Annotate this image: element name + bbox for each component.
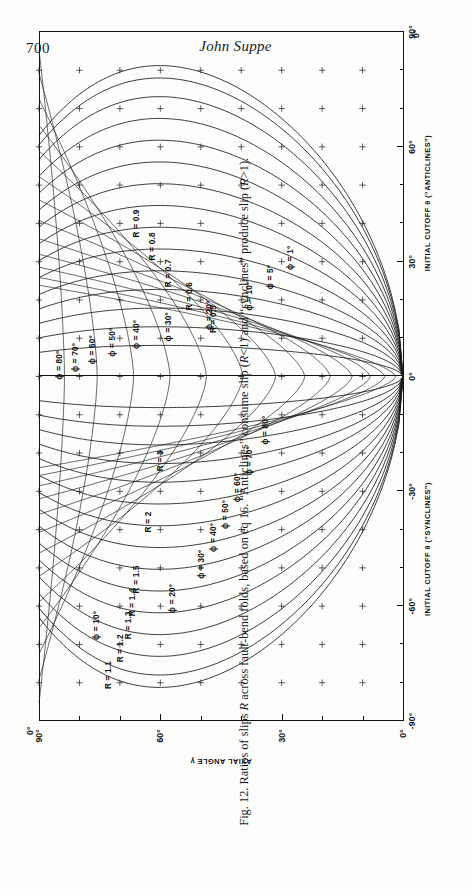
- grid-plus-mark: [157, 526, 163, 532]
- curve-label-syncline: ϕ = 10°: [91, 611, 100, 640]
- grid-plus-mark: [278, 182, 284, 188]
- grid-plus-mark: [319, 144, 325, 150]
- grid-plus-mark: [76, 220, 82, 226]
- grid-plus-mark: [76, 373, 82, 379]
- contour-path: [39, 377, 403, 483]
- plot-area: -90°-60°-30°0°30°60°90° 0°30°60°90° INIT…: [0, 1, 469, 781]
- contour-path: [39, 377, 403, 445]
- grid-plus-mark: [278, 565, 284, 571]
- curve-label-anticline: R = 0.8: [148, 232, 157, 260]
- grid-plus-mark: [157, 373, 163, 379]
- curve-label-anticline: R = 0.6: [184, 282, 193, 310]
- grid-plus-mark: [278, 603, 284, 609]
- grid-plus-mark: [36, 373, 42, 379]
- curve-label-syncline: R = 1.1: [103, 661, 112, 689]
- grid-plus-mark: [319, 488, 325, 494]
- figure-caption-text-2: across fault-bend folds, based on eq 16.…: [237, 363, 251, 703]
- grid-plus-mark: [198, 220, 204, 226]
- grid-plus-mark: [76, 105, 82, 111]
- grid-plus-mark: [278, 297, 284, 303]
- figure-caption-text-1: Ratios of slips: [237, 710, 251, 784]
- grid-plus-mark: [359, 488, 365, 494]
- grid-plus-mark: [319, 258, 325, 264]
- grid-plus-mark: [117, 297, 123, 303]
- curve-label-anticline: ϕ = 60°: [87, 335, 96, 364]
- curve-label-syncline: ϕ = 80°: [261, 415, 270, 444]
- curve-label-syncline: ϕ = 20°: [168, 584, 177, 613]
- grid-plus-mark: [359, 258, 365, 264]
- grid-plus-mark: [117, 220, 123, 226]
- curve-label-syncline: ϕ = 50°: [221, 500, 230, 529]
- grid-plus-mark: [359, 603, 365, 609]
- figure-caption-italic-r-1: R: [237, 703, 251, 711]
- grid-plus-mark: [198, 373, 204, 379]
- figure-caption-label: Fig. 12.: [237, 788, 251, 826]
- grid-plus-mark: [117, 526, 123, 532]
- grid-plus-mark: [76, 144, 82, 150]
- curve-label-anticline: ϕ = 50°: [107, 327, 116, 356]
- grid-plus-mark: [359, 297, 365, 303]
- grid-plus-mark: [117, 412, 123, 418]
- grid-plus-mark: [117, 335, 123, 341]
- curve-label-syncline: R = 3: [156, 450, 165, 471]
- grid-plus-mark: [319, 105, 325, 111]
- grid-plus-mark: [319, 182, 325, 188]
- grid-plus-mark: [319, 680, 325, 686]
- contour-path: [39, 377, 305, 533]
- grid-plus-mark: [359, 182, 365, 188]
- grid-plus-mark: [278, 526, 284, 532]
- grid-plus-mark: [76, 412, 82, 418]
- grid-plus-mark: [359, 67, 365, 73]
- grid-plus-mark: [117, 258, 123, 264]
- grid-plus-mark: [76, 67, 82, 73]
- figure-caption-italic-r-2: R: [237, 356, 251, 364]
- grid-plus-mark: [36, 144, 42, 150]
- grid-plus-mark: [359, 373, 365, 379]
- grid-plus-mark: [157, 144, 163, 150]
- grid-plus-mark: [359, 105, 365, 111]
- figure-caption-italic-r-3: R: [237, 178, 251, 186]
- grid-plus-mark: [157, 67, 163, 73]
- contour-path: [39, 377, 97, 680]
- grid-plus-mark: [359, 412, 365, 418]
- contour-path: [39, 73, 97, 376]
- grid-plus-mark: [198, 258, 204, 264]
- contour-curves: [0, 1, 469, 781]
- contour-path: [39, 377, 403, 408]
- curve-label-anticline: ϕ = 40°: [132, 320, 141, 349]
- grid-plus-mark: [198, 335, 204, 341]
- figure-caption-text-4: >1).: [237, 158, 251, 178]
- contour-path: [39, 377, 170, 629]
- grid-plus-mark: [319, 641, 325, 647]
- figure-caption-text-3: <1) and “synclines” produce slip (: [237, 186, 251, 356]
- grid-plus-mark: [278, 412, 284, 418]
- grid-plus-mark: [198, 488, 204, 494]
- grid-plus-mark: [278, 641, 284, 647]
- figure-caption: Fig. 12. Ratios of slips R across fault-…: [237, 0, 253, 826]
- grid-plus-mark: [117, 373, 123, 379]
- grid-plus-mark: [76, 641, 82, 647]
- grid-plus-mark: [157, 603, 163, 609]
- curve-label-syncline: ϕ = 30°: [196, 549, 205, 578]
- grid-plus-mark: [76, 603, 82, 609]
- grid-plus-mark: [198, 412, 204, 418]
- grid-plus-mark: [157, 258, 163, 264]
- grid-plus-mark: [36, 335, 42, 341]
- grid-plus-mark: [36, 105, 42, 111]
- plot-rotation-wrapper: -90°-60°-30°0°30°60°90° 0°30°60°90° INIT…: [0, 1, 469, 781]
- grid-plus-mark: [76, 258, 82, 264]
- grid-plus-mark: [319, 412, 325, 418]
- grid-plus-mark: [157, 565, 163, 571]
- grid-plus-mark: [36, 641, 42, 647]
- grid-plus-mark: [278, 488, 284, 494]
- grid-plus-mark: [359, 680, 365, 686]
- grid-plus-mark: [359, 565, 365, 571]
- grid-plus-mark: [36, 412, 42, 418]
- curve-label-syncline: ϕ = 40°: [208, 523, 217, 552]
- curve-label-syncline: R = 2: [144, 512, 153, 533]
- grid-plus-mark: [198, 105, 204, 111]
- grid-plus-mark: [359, 144, 365, 150]
- grid-plus-mark: [36, 565, 42, 571]
- grid-plus-mark: [319, 603, 325, 609]
- grid-plus-mark: [117, 105, 123, 111]
